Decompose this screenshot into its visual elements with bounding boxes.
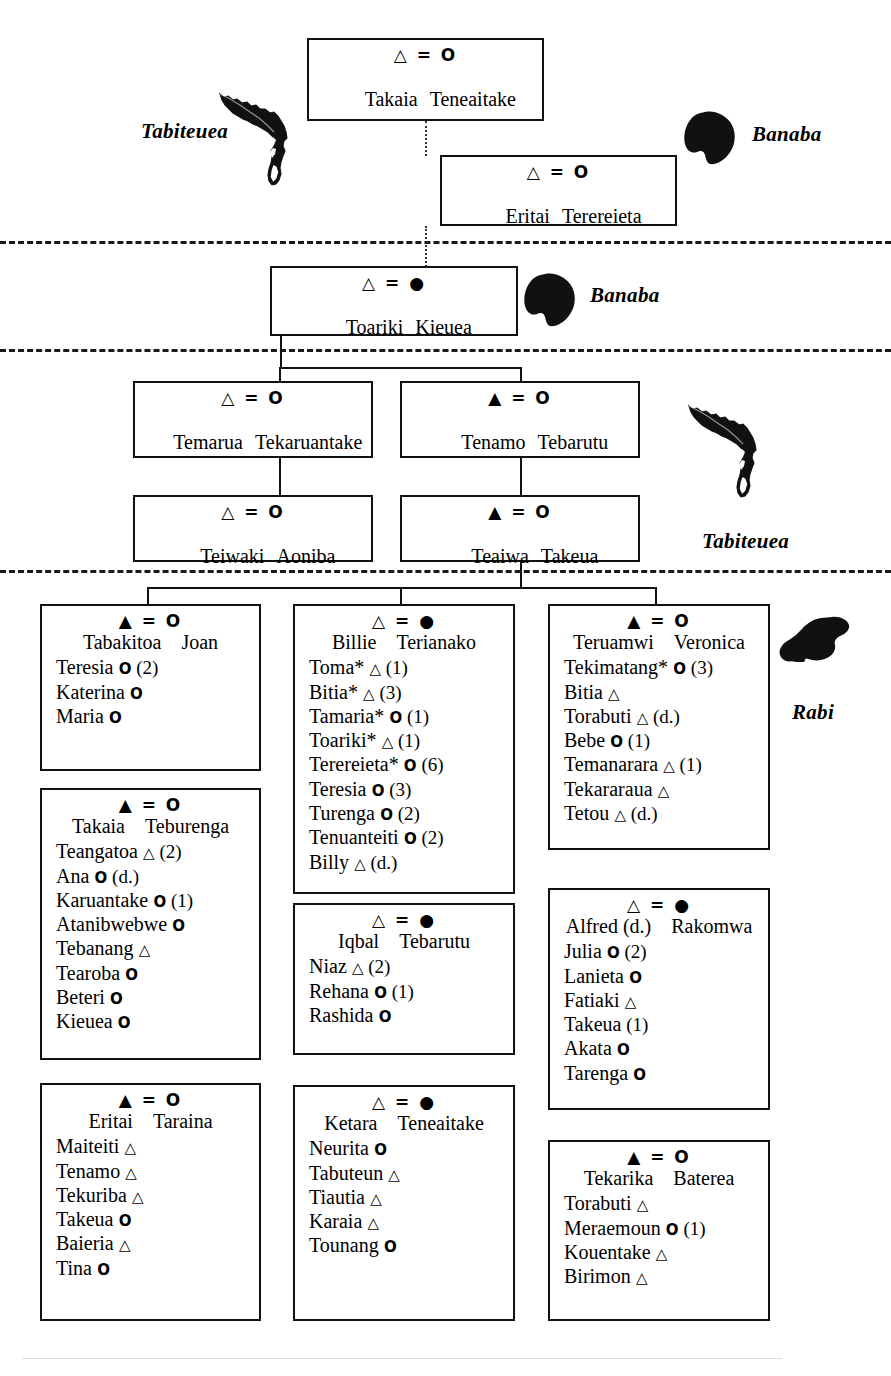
couple-names: TeaiwaTakeua [402, 522, 638, 593]
child-entry: Teresia O (2) [56, 655, 259, 679]
child-sex-symbol: △ [362, 1214, 379, 1232]
child-name: Niaz [309, 955, 347, 977]
union-symbols: △ = ● [550, 896, 768, 915]
child-sex-symbol: O [113, 1014, 131, 1032]
child-offspring-count: (1) [675, 754, 702, 775]
husband-symbol: △ [221, 502, 236, 522]
child-sex-symbol: △ [383, 1166, 400, 1184]
child-name: Tamaria* [309, 705, 384, 727]
child-sex-symbol: O [624, 969, 642, 987]
child-sex-symbol: O [605, 733, 623, 751]
children-list: Niaz △ (2)Rehana O (1)Rashida O [295, 954, 513, 1027]
wife-name: Tekaruantake [255, 431, 362, 453]
child-entry: Lanieta O [564, 964, 768, 988]
child-entry: Bitia* △ (3) [309, 680, 513, 704]
child-sex-symbol: O [628, 1066, 646, 1084]
child-sex-symbol: △ [114, 1236, 131, 1254]
child-entry: Tekuriba △ [56, 1183, 259, 1207]
family-box-tenamo-tebarutu[interactable]: ▲ = O TenamoTebarutu [400, 381, 640, 458]
union-symbol: = [244, 388, 260, 408]
family-box-alfred-rakomwa[interactable]: △ = ●Alfred (d.) RakomwaJulia O (2)Lanie… [548, 888, 770, 1110]
child-name: Rehana [309, 980, 369, 1002]
family-box-ketara-teneaitake[interactable]: △ = ●Ketara TeneaitakeNeurita OTabuteun … [293, 1085, 515, 1321]
family-box-tekarika-baterea[interactable]: ▲ = OTekarika BatereaTorabuti △Meraemoun… [548, 1140, 770, 1321]
family-box-teaiwa-takeua[interactable]: ▲ = O TeaiwaTakeua [400, 495, 640, 562]
child-entry: Maiteiti △ [56, 1134, 259, 1158]
family-box-teiwaki-aoniba[interactable]: △ = O TeiwakiAoniba [133, 495, 373, 562]
wife-symbol: O [574, 162, 590, 182]
wife-name: Aoniba [276, 545, 335, 567]
child-entry: Turenga O (2) [309, 801, 513, 825]
union-symbols: △ = ● [295, 911, 513, 930]
child-offspring-count: (1) [387, 981, 414, 1002]
child-name: Baieria [56, 1232, 114, 1254]
child-offspring-count: (1) [623, 730, 650, 751]
child-entry: Bitia △ [564, 680, 768, 704]
child-name: Fatiaki [564, 989, 620, 1011]
child-entry: Fatiaki △ [564, 988, 768, 1012]
couple-names: Ketara Teneaitake [295, 1112, 513, 1136]
child-sex-symbol: O [373, 1008, 391, 1026]
family-box-eritai-terereieta[interactable]: △ = O EritaiTerereieta [440, 155, 677, 226]
child-sex-symbol: O [120, 966, 138, 984]
child-sex-symbol: O [399, 757, 417, 775]
family-box-billie-terianako[interactable]: △ = ●Billie TerianakoToma* △ (1)Bitia* △… [293, 604, 515, 894]
child-sex-symbol: O [113, 1212, 131, 1230]
child-name: Turenga [309, 802, 375, 824]
wife-symbol: O [268, 502, 284, 522]
couple-names: Tabakitoa Joan [42, 631, 259, 655]
child-sex-symbol: O [612, 1041, 630, 1059]
husband-name: Temarua [173, 431, 243, 453]
child-entry: Tarenga O [564, 1061, 768, 1085]
child-entry: Tabuteun △ [309, 1161, 513, 1185]
child-name: Tounang [309, 1234, 379, 1256]
child-sex-symbol: O [148, 893, 166, 911]
child-name: Birimon [564, 1265, 631, 1287]
wife-symbol: O [268, 388, 284, 408]
union-symbols: ▲ = O [402, 497, 638, 522]
family-box-temarua-tekaruantake[interactable]: △ = O TemaruaTekaruantake [133, 381, 373, 458]
family-box-eritai-taraina[interactable]: ▲ = OEritai TarainaMaiteiti △Tenamo △Tek… [40, 1083, 261, 1321]
couple-names: Eritai Taraina [42, 1110, 259, 1134]
couple-names: TeiwakiAoniba [135, 522, 371, 593]
family-box-tabakitoa-joan[interactable]: ▲ = OTabakitoa JoanTeresia O (2)Katerina… [40, 604, 261, 771]
child-entry: Tenuanteiti O (2) [309, 825, 513, 849]
child-sex-symbol: O [384, 709, 402, 727]
child-sex-symbol: △ [631, 1196, 648, 1214]
child-entry: Kouentake △ [564, 1240, 768, 1264]
child-sex-symbol: △ [119, 1139, 136, 1157]
family-box-takaia-teneaitake[interactable]: △ = O TakaiaTeneaitake [307, 38, 544, 121]
child-sex-symbol: △ [133, 941, 150, 959]
child-sex-symbol: O [668, 660, 686, 678]
union-symbols: ▲ = O [550, 612, 768, 631]
children-list: Torabuti △Meraemoun O (1)Kouentake △Biri… [550, 1191, 768, 1288]
union-symbol: = [385, 273, 401, 293]
child-sex-symbol: O [399, 830, 417, 848]
child-name: Tebanang [56, 937, 133, 959]
child-name: Tekararaua [564, 778, 653, 800]
child-entry: Birimon △ [564, 1264, 768, 1288]
wife-name: Kieuea [415, 316, 472, 338]
child-entry: Toariki* △ (1) [309, 728, 513, 752]
child-name: Katerina [56, 681, 125, 703]
child-name: Terereieta* [309, 753, 399, 775]
child-name: Meraemoun [564, 1217, 661, 1239]
child-name: Bitia* [309, 681, 358, 703]
child-name: Kieuea [56, 1010, 113, 1032]
family-box-iqbal-tebarutu[interactable]: △ = ●Iqbal TebarutuNiaz △ (2)Rehana O (1… [293, 903, 515, 1055]
couple-names: TenamoTebarutu [402, 408, 638, 479]
child-name: Temanarara [564, 753, 658, 775]
child-name: Tiautia [309, 1186, 365, 1208]
child-entry: Tekimatang* O (3) [564, 655, 768, 679]
child-entry: Takeua O [56, 1207, 259, 1231]
child-entry: Temanarara △ (1) [564, 752, 768, 776]
child-sex-symbol: △ [349, 855, 366, 873]
family-box-teruamwi-veronica[interactable]: ▲ = OTeruamwi VeronicaTekimatang* O (3)B… [548, 604, 770, 850]
child-entry: Rashida O [309, 1003, 513, 1027]
family-box-takaia-teburenga[interactable]: ▲ = OTakaia TeburengaTeangatoa △ (2)Ana … [40, 788, 261, 1060]
family-box-toariki-kieuea[interactable]: △ = ● ToarikiKieuea [270, 266, 518, 336]
child-offspring-count: (2) [393, 803, 420, 824]
child-sex-symbol: △ [603, 685, 620, 703]
union-symbol: = [511, 502, 527, 522]
child-sex-symbol: O [375, 806, 393, 824]
